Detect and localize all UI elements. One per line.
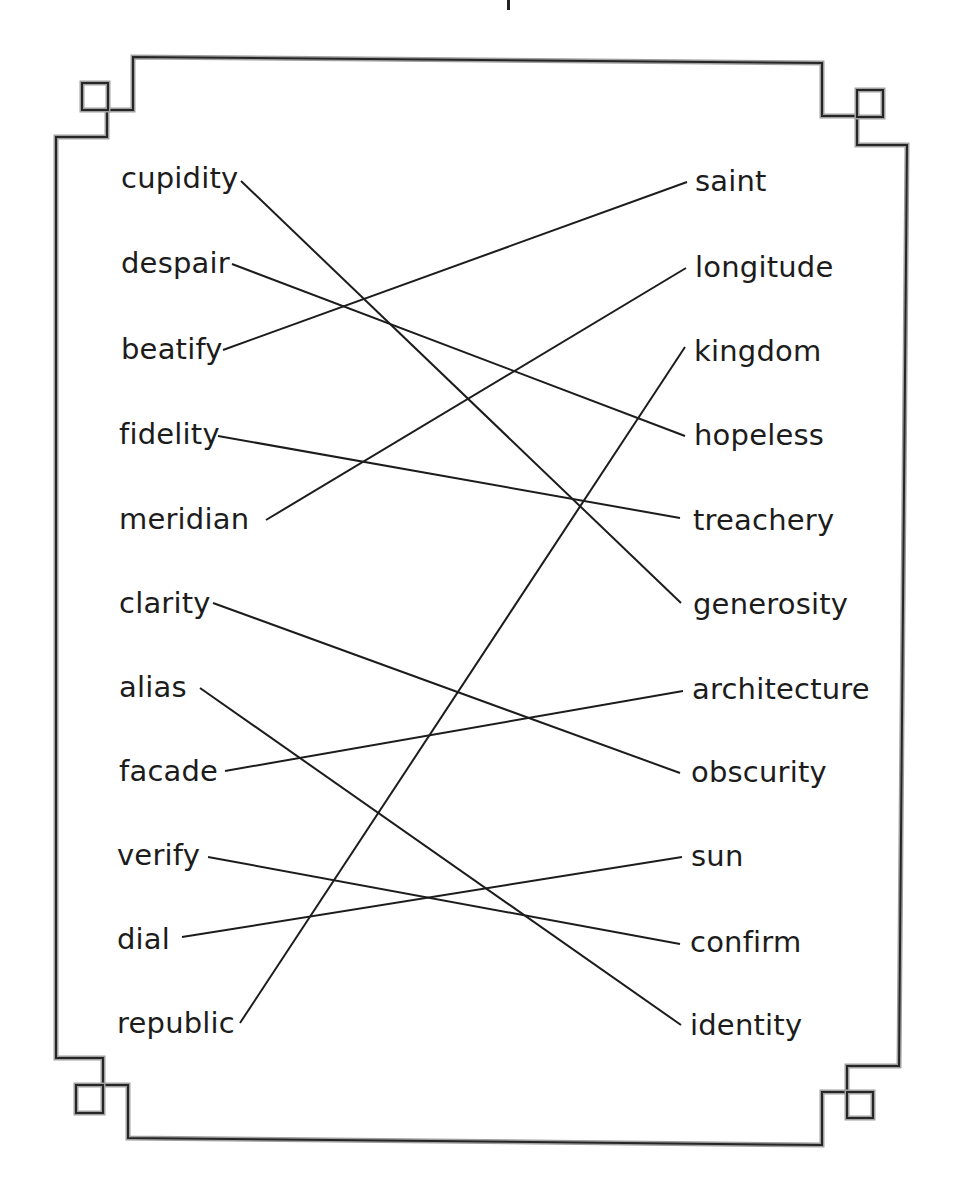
right-word-identity[interactable]: identity [690, 1008, 802, 1042]
match-lines [182, 181, 687, 1025]
left-word-fidelity[interactable]: fidelity [119, 417, 220, 451]
matching-worksheet: cupiditydespairbeatifyfidelitymeridiancl… [0, 0, 953, 1184]
match-line-facade-architecture [225, 691, 683, 771]
match-line-dial-sun [182, 857, 682, 937]
right-word-architecture[interactable]: architecture [692, 672, 870, 706]
match-line-verify-confirm [208, 857, 680, 944]
left-word-verify[interactable]: verify [117, 838, 200, 872]
match-line-republic-kingdom [240, 347, 685, 1023]
right-word-treachery[interactable]: treachery [693, 503, 834, 537]
left-word-alias[interactable]: alias [119, 670, 187, 704]
right-word-hopeless[interactable]: hopeless [694, 418, 824, 452]
right-word-saint[interactable]: saint [695, 164, 767, 198]
left-word-cupidity[interactable]: cupidity [121, 161, 238, 195]
left-word-republic[interactable]: republic [117, 1006, 235, 1040]
right-word-generosity[interactable]: generosity [693, 587, 848, 621]
match-line-despair-hopeless [232, 264, 685, 436]
left-word-beatify[interactable]: beatify [121, 332, 223, 366]
right-word-obscurity[interactable]: obscurity [691, 755, 827, 789]
corner-square-top-right [857, 90, 883, 117]
corner-square-bottom-right [847, 1092, 873, 1118]
right-word-longitude[interactable]: longitude [695, 250, 833, 284]
match-line-fidelity-treachery [218, 436, 680, 518]
left-word-clarity[interactable]: clarity [119, 586, 211, 620]
corner-square-bottom-left [76, 1085, 103, 1113]
left-word-despair[interactable]: despair [121, 246, 230, 280]
left-word-facade[interactable]: facade [119, 754, 218, 788]
right-word-kingdom[interactable]: kingdom [694, 334, 821, 368]
match-line-beatify-saint [223, 182, 687, 350]
corner-square-top-left [82, 83, 108, 110]
right-word-confirm[interactable]: confirm [690, 925, 801, 959]
right-word-sun[interactable]: sun [691, 839, 743, 873]
left-word-meridian[interactable]: meridian [119, 502, 249, 536]
left-word-dial[interactable]: dial [117, 922, 170, 956]
match-line-clarity-obscurity [213, 603, 680, 773]
match-line-cupidity-generosity [241, 181, 681, 603]
